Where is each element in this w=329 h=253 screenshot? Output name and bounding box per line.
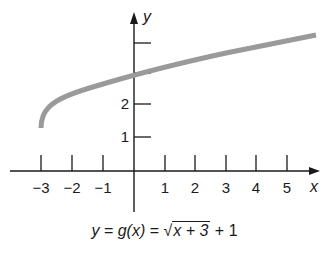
svg-text:4: 4: [252, 179, 260, 196]
sqrt-icon: √: [163, 222, 172, 239]
x-ticks: [41, 155, 287, 171]
equation-tail: + 1: [210, 222, 237, 239]
svg-text:3: 3: [222, 179, 230, 196]
svg-text:5: 5: [283, 179, 291, 196]
equation-equals-2: =: [145, 222, 163, 239]
x-axis-arrow-icon: [309, 167, 320, 175]
equation-equals-1: =: [99, 222, 117, 239]
svg-text:2: 2: [191, 179, 199, 196]
y-axis-label: y: [142, 8, 152, 25]
svg-text:−3: −3: [32, 179, 49, 196]
y-axis-arrow-icon: [130, 12, 138, 24]
graph: −3 −2 −1 1 2 3 4 5 1 2 x y: [0, 0, 329, 253]
y-tick-label-2: 2: [121, 95, 129, 112]
sqrt-expression: √x + 3: [163, 222, 210, 240]
y-tick-label-1: 1: [121, 128, 129, 145]
svg-text:−2: −2: [63, 179, 80, 196]
equation-arg: (x): [127, 222, 146, 239]
y-ticks: [134, 43, 151, 137]
function-curve: [41, 35, 316, 128]
svg-text:1: 1: [161, 179, 169, 196]
equation-g: g: [118, 222, 127, 239]
radicand: x + 3: [172, 221, 210, 239]
x-tick-labels: −3 −2 −1 1 2 3 4 5: [32, 179, 291, 196]
x-axis-label: x: [309, 178, 319, 195]
svg-text:−1: −1: [94, 179, 111, 196]
function-equation: y = g(x) = √x + 3 + 1: [0, 222, 329, 240]
